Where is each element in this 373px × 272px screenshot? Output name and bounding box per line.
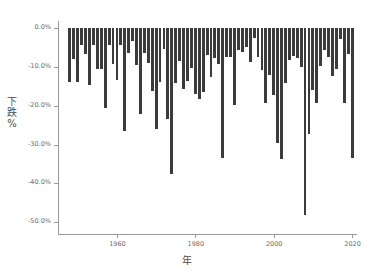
bar [347, 28, 350, 54]
bars-container [66, 22, 356, 234]
bar [76, 28, 79, 82]
bar [253, 28, 256, 38]
bar [119, 28, 122, 45]
bar [116, 28, 119, 80]
bar [80, 28, 83, 46]
bar [147, 28, 150, 63]
bar [139, 28, 142, 114]
bar [151, 28, 154, 91]
bar [241, 28, 244, 52]
x-axis-tick-label: 2020 [344, 240, 361, 248]
bar [92, 28, 95, 45]
x-axis-tick-label: 1960 [109, 240, 126, 248]
bar [210, 28, 213, 77]
bar [135, 28, 138, 65]
bar [68, 28, 71, 82]
bar [217, 28, 220, 65]
bar [163, 28, 166, 49]
bar [186, 28, 189, 81]
bar [280, 28, 283, 159]
bar [155, 28, 158, 129]
y-axis-title-char: % [3, 118, 21, 129]
bar [351, 28, 354, 158]
bar [339, 28, 342, 39]
bar [261, 28, 264, 70]
x-axis-tick: 2000 [274, 234, 275, 238]
y-axis-tick-label: -20.0% [28, 101, 51, 109]
chart-figure: 下跌% 年 0.0%-10.0%-20.0%-30.0%-40.0%-50.0%… [0, 0, 373, 272]
bar [213, 28, 216, 58]
x-axis-title-text: 年 [182, 255, 192, 266]
bar [123, 28, 126, 131]
x-axis-tick-label: 1980 [188, 240, 205, 248]
bar [198, 28, 201, 100]
bar [315, 28, 318, 103]
bar [331, 28, 334, 76]
x-axis-line [58, 234, 357, 235]
bar [257, 28, 260, 58]
bar [272, 28, 275, 95]
bar [323, 28, 326, 51]
bar [88, 28, 91, 86]
bar [225, 28, 228, 58]
x-axis-tick: 2020 [352, 234, 353, 238]
bar [159, 28, 162, 82]
bar [104, 28, 107, 109]
bar [194, 28, 197, 95]
bar [300, 28, 303, 67]
bar [268, 28, 271, 75]
bar [190, 28, 193, 68]
bar [292, 28, 295, 56]
bar [174, 28, 177, 83]
bar [84, 28, 87, 54]
bar [311, 28, 314, 90]
bar [284, 28, 287, 83]
plot-area: 0.0%-10.0%-20.0%-30.0%-40.0%-50.0%196019… [66, 22, 356, 234]
bar [245, 28, 248, 47]
y-axis-line [58, 21, 59, 235]
bar [143, 28, 146, 54]
bar [304, 28, 307, 215]
bar [249, 28, 252, 63]
y-axis-tick: 0.0% [54, 28, 58, 29]
x-axis-tick-label: 2000 [266, 240, 283, 248]
x-axis-tick: 1980 [195, 234, 196, 238]
bar [233, 28, 236, 105]
y-axis-tick-label: -10.0% [28, 62, 51, 70]
bar [182, 28, 185, 89]
bar [112, 28, 115, 64]
x-axis-tick: 1960 [117, 234, 118, 238]
y-axis-tick-label: -30.0% [28, 140, 51, 148]
bar [276, 28, 279, 144]
x-axis-title: 年 [0, 252, 373, 267]
bar [264, 28, 267, 103]
bar [308, 28, 311, 134]
bar [288, 28, 291, 60]
y-axis-title-text: 下跌% [3, 96, 21, 129]
bar [237, 28, 240, 50]
bar [296, 28, 299, 58]
y-axis-title-char: 下 [3, 96, 21, 107]
bar [343, 28, 346, 103]
bar [229, 28, 232, 58]
bar [100, 28, 103, 69]
y-axis-title: 下跌% [3, 96, 21, 129]
bar [327, 28, 330, 57]
bar [131, 28, 134, 42]
y-axis-tick-label: -40.0% [28, 178, 51, 186]
bar [170, 28, 173, 174]
bar [221, 28, 224, 158]
bar [206, 28, 209, 55]
y-axis-title-char: 跌 [3, 107, 21, 118]
bar [335, 28, 338, 69]
bar [96, 28, 99, 69]
bar [127, 28, 130, 53]
y-axis-tick: -50.0% [54, 222, 58, 223]
y-axis-tick: -30.0% [54, 145, 58, 146]
bar [166, 28, 169, 119]
y-axis-tick-label: 0.0% [34, 23, 51, 31]
y-axis-tick: -20.0% [54, 106, 58, 107]
y-axis-tick-label: -50.0% [28, 217, 51, 225]
bar [202, 28, 205, 93]
y-axis-tick: -10.0% [54, 67, 58, 68]
